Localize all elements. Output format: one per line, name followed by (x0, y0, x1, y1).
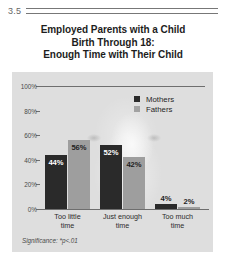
bar-value-label: 56% (71, 143, 86, 152)
x-axis-label-line-2: time (40, 222, 95, 231)
bar-value-label: 42% (126, 160, 141, 169)
bar-group-too-little-time: 44% 56% (40, 86, 95, 209)
ytick-label-100: 100% (21, 83, 37, 90)
bar-value-label: 44% (48, 158, 63, 167)
chart-panel: 0% 20% 40% 60% 80% 100% 44% (12, 72, 213, 252)
x-axis-label-too-little-time: Too little time (40, 213, 95, 230)
bar-just-enough-time-fathers[interactable]: 42% (123, 157, 145, 209)
x-axis-label-line-2: time (150, 222, 205, 231)
ytick-label-20: 20% (24, 181, 37, 188)
legend-item-mothers[interactable]: Mothers (134, 94, 174, 104)
legend-label-fathers: Fathers (146, 105, 172, 114)
legend-label-mothers: Mothers (146, 95, 174, 104)
bar-just-enough-time-mothers[interactable]: 52% (100, 145, 122, 209)
chart-title-line-3: Enough Time with Their Child (10, 49, 216, 62)
x-axis-label-just-enough-time: Just enough time (95, 213, 150, 230)
ytick-label-80: 80% (24, 107, 37, 114)
bar-too-little-time-fathers[interactable]: 56% (68, 140, 90, 209)
chart-title: Employed Parents with a Child Birth Thro… (10, 24, 216, 62)
page-header: 3.5 (0, 4, 226, 18)
x-axis-label-too-much-time: Too much time (150, 213, 205, 230)
legend-item-fathers[interactable]: Fathers (134, 104, 174, 114)
bar-value-label: 2% (184, 197, 195, 206)
chart-title-line-1: Employed Parents with a Child (10, 24, 216, 37)
bar-groups: 44% 56% 52% 42% 4% 2% (40, 86, 205, 209)
chart-title-line-2: Birth Through 18: (10, 37, 216, 50)
x-axis-labels: Too little time Just enough time Too muc… (40, 213, 205, 230)
bar-value-label: 52% (103, 148, 118, 157)
bar-value-label: 4% (161, 194, 172, 203)
bar-too-little-time-mothers[interactable]: 44% (45, 155, 67, 209)
legend-swatch-icon (134, 96, 140, 102)
ytick-label-40: 40% (24, 156, 37, 163)
figure-number: 3.5 (8, 6, 21, 16)
chart-legend: Mothers Fathers (134, 94, 174, 114)
x-axis-label-line-2: time (95, 222, 150, 231)
ytick-label-60: 60% (24, 132, 37, 139)
significance-footnote: Significance: *p<.01 (22, 237, 78, 244)
legend-swatch-icon (134, 106, 140, 112)
x-axis-line (36, 209, 209, 210)
header-rule (26, 8, 218, 14)
